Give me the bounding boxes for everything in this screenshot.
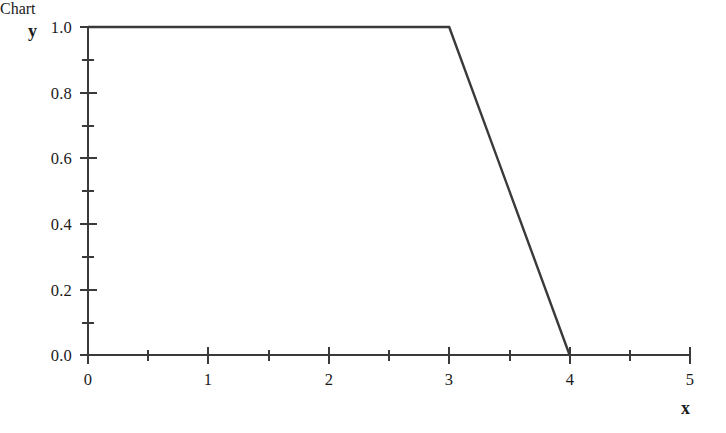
x-tick-label-4: 4	[550, 372, 590, 389]
y-tick-label-0.0: 0.0	[8, 348, 72, 365]
x-tick-label-0: 0	[68, 372, 108, 389]
x-tick-label-3: 3	[429, 372, 469, 389]
data-series-line	[88, 27, 570, 355]
x-tick-label-2: 2	[309, 372, 349, 389]
axis-lines	[88, 27, 690, 356]
y-tick-label-0.4: 0.4	[8, 217, 72, 234]
y-tick-label-0.2: 0.2	[8, 283, 72, 300]
y-tick-label-0.6: 0.6	[8, 151, 72, 168]
x-axis-label: x	[681, 399, 690, 417]
chart-figure: y 1.0 0.8 0.6 0.4 0.2 0.0 0 1 2 3 4 5 x	[0, 0, 726, 433]
x-tick-label-1: 1	[188, 372, 228, 389]
plot-area	[0, 0, 726, 433]
x-tick-label-5: 5	[670, 372, 710, 389]
y-tick-label-0.8: 0.8	[8, 86, 72, 103]
y-tick-label-1.0: 1.0	[8, 20, 72, 37]
